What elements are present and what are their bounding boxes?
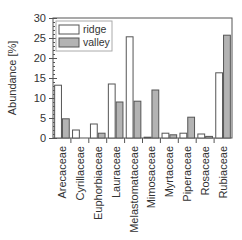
y-tick-label: 20 <box>34 52 46 64</box>
x-tick-label: Euphorbiaceae <box>92 146 104 220</box>
legend-label-ridge: ridge <box>83 23 107 35</box>
bar-ridge <box>73 130 80 138</box>
bar-ridge <box>90 124 97 138</box>
x-tick-label: Arecaceae <box>56 146 68 199</box>
x-tick-label: Myrtaceae <box>163 146 175 197</box>
y-tick-label: 5 <box>40 112 46 124</box>
y-tick-label: 15 <box>34 72 46 84</box>
x-tick-label: Lauraceae <box>110 146 122 198</box>
bar-valley <box>134 101 141 138</box>
x-tick-label: Rubiaceae <box>217 146 229 199</box>
x-tick-label: Cyrillaceae <box>74 146 86 200</box>
x-tick-label: Rosaceae <box>199 146 211 196</box>
legend-swatch-ridge <box>59 25 79 34</box>
bar-valley <box>206 136 213 138</box>
bar-ridge <box>144 137 151 138</box>
bar-valley <box>170 135 177 138</box>
y-tick-label: 25 <box>34 32 46 44</box>
bar-ridge <box>162 133 169 138</box>
bar-ridge <box>180 133 187 138</box>
bar-valley <box>62 119 69 138</box>
y-axis-label: Abundance [%] <box>6 41 18 116</box>
bar-ridge <box>198 134 205 138</box>
x-tick-label: Melastomataceae <box>128 146 140 233</box>
bar-valley <box>116 102 123 138</box>
y-tick-label: 0 <box>40 132 46 144</box>
abundance-bar-chart: 051015202530ArecaceaeCyrillaceaeEuphorbi… <box>0 0 242 240</box>
y-tick-label: 30 <box>34 12 46 24</box>
bar-valley <box>224 35 231 138</box>
legend-swatch-valley <box>59 38 79 47</box>
bar-ridge <box>55 85 62 138</box>
bar-ridge <box>216 73 223 138</box>
bar-valley <box>98 133 105 138</box>
bar-ridge <box>108 84 115 138</box>
y-tick-label: 10 <box>34 92 46 104</box>
legend-label-valley: valley <box>83 36 111 48</box>
legend: ridgevalley <box>56 21 112 51</box>
x-tick-label: Piperaceae <box>181 146 193 202</box>
bar-ridge <box>126 37 133 138</box>
bar-valley <box>152 90 159 138</box>
bar-valley <box>188 117 195 138</box>
x-tick-label: Mimosaceae <box>145 146 157 208</box>
